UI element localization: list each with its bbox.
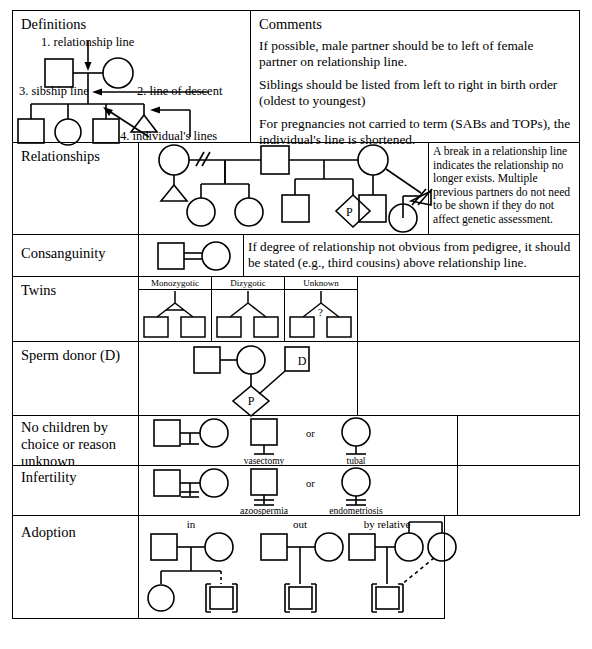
row-relationships: Relationships: [12, 143, 580, 235]
comment-paragraph-2: Siblings should be listed from left to r…: [259, 77, 573, 109]
infertility-diagram: or azoospermia endometriosis: [139, 466, 458, 516]
row-label-sperm-donor: Sperm donor (D): [13, 342, 139, 415]
twins-unknown-diagram: ?: [285, 291, 358, 339]
row-title: No children by choice or reason unknown: [21, 419, 116, 469]
twins-monozygotic: Monozygotic: [139, 277, 212, 341]
definition-label-2: 2. line of descent: [137, 84, 222, 99]
comment-paragraph-1: If possible, male partner should be to l…: [259, 38, 573, 70]
adoption-out-label: out: [293, 518, 307, 530]
infertility-art-cell: or azoospermia endometriosis: [139, 466, 458, 515]
relationships-note: A break in a relationship line indicates…: [433, 145, 575, 226]
twins-dizygotic: Dizygotic: [212, 277, 285, 341]
relationships-diagram: P: [139, 143, 429, 235]
row-label-consanguinity: Consanguinity: [13, 235, 139, 276]
no-children-art-cell: or vasectomy tubal: [139, 416, 458, 465]
consanguinity-diagram: [139, 235, 244, 277]
pregnancy-symbol-label: P: [248, 394, 255, 408]
endometriosis-caption: endometriosis: [329, 506, 383, 516]
row-definitions: Definitions: [12, 10, 580, 143]
twins-art-cell: Monozygotic Dizygotic: [139, 277, 358, 341]
consanguinity-note-text: If degree of relationship not obvious fr…: [248, 239, 574, 271]
no-children-diagram: or vasectomy tubal: [139, 416, 458, 466]
row-infertility: Infertility: [12, 466, 580, 516]
row-label-relationships: Relationships: [13, 143, 139, 234]
comments-header: Comments: [259, 16, 322, 33]
row-title: Adoption: [21, 524, 76, 540]
or-label: or: [306, 428, 315, 439]
row-adoption: Adoption: [12, 516, 445, 619]
twins-unknown-label: Unknown: [285, 278, 357, 290]
row-label-adoption: Adoption: [13, 516, 139, 618]
relationships-art-cell: P: [139, 143, 429, 234]
twins-unknown: Unknown ?: [285, 277, 357, 341]
definition-label-1: 1. relationship line: [41, 35, 134, 50]
row-title: Relationships: [21, 148, 100, 164]
row-title: Sperm donor (D): [21, 347, 120, 363]
consanguinity-note: If degree of relationship not obvious fr…: [248, 239, 574, 271]
definitions-cell: Definitions: [13, 11, 251, 142]
twins-monozygotic-label: Monozygotic: [139, 278, 211, 290]
twins-dizygotic-diagram: [212, 291, 285, 339]
comments-cell: Comments If possible, male partner shoul…: [251, 11, 579, 142]
row-title: Twins: [21, 282, 56, 298]
row-title: Consanguinity: [21, 245, 106, 261]
or-label: or: [306, 478, 315, 489]
vasectomy-caption: vasectomy: [244, 456, 285, 466]
sperm-donor-diagram: D P: [139, 342, 358, 416]
pregnancy-symbol-label: P: [346, 205, 353, 219]
row-consanguinity: Consanguinity If degree of relationship …: [12, 235, 580, 277]
twins-unknown-mark: ?: [318, 306, 323, 318]
twins-monozygotic-diagram: [139, 291, 212, 339]
adoption-by-relative-label: by relative: [364, 518, 411, 530]
row-label-no-children: No children by choice or reason unknown: [13, 416, 139, 465]
twins-dizygotic-label: Dizygotic: [212, 278, 284, 290]
comments-body: If possible, male partner should be to l…: [259, 38, 573, 148]
consanguinity-art-cell: [139, 235, 244, 276]
row-twins: Twins Monozygotic D: [12, 277, 580, 342]
adoption-in-label: in: [187, 518, 196, 530]
pedigree-notation-table: Definitions: [12, 10, 580, 619]
row-title: Infertility: [21, 469, 77, 485]
azoospermia-caption: azoospermia: [240, 506, 289, 516]
adoption-art-cell: in out by relative: [139, 516, 444, 618]
tubal-caption: tubal: [347, 456, 366, 466]
definition-label-3: 3. sibship line: [19, 84, 89, 99]
adoption-diagram: in out by relative: [139, 516, 446, 619]
definition-label-4: 4. individual's lines: [120, 129, 217, 144]
row-label-twins: Twins: [13, 277, 139, 341]
row-sperm-donor: Sperm donor (D) D P: [12, 342, 580, 416]
sperm-donor-art-cell: D P: [139, 342, 358, 415]
row-label-infertility: Infertility: [13, 466, 139, 515]
definitions-header: Definitions: [21, 16, 86, 33]
row-no-children: No children by choice or reason unknown: [12, 416, 580, 466]
relationships-note-text: A break in a relationship line indicates…: [433, 145, 575, 226]
donor-symbol-label: D: [298, 354, 307, 368]
